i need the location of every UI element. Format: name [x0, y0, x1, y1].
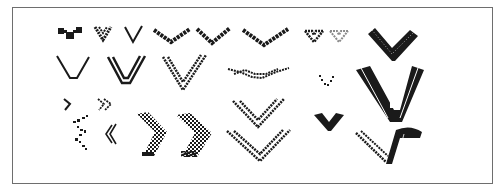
pattern-sample-grid: [0, 0, 503, 195]
sample-dot-v-icon: [319, 75, 334, 86]
sample-checker-chevron-2-icon: [176, 113, 212, 157]
sample-double-arrow-right-icon: [98, 99, 111, 110]
sample-checker-v-icon: [163, 55, 206, 90]
sample-checker-v-small-icon: [233, 99, 284, 127]
sample-checker-v-wide-icon: [227, 130, 290, 161]
sample-open-v-icon: [57, 56, 89, 78]
sample-double-v-icon: [108, 56, 145, 83]
sample-wave-chain-icon: [228, 68, 289, 78]
sample-checker-chevron-1-icon: [137, 112, 167, 156]
sample-jagged-v-icon: [154, 29, 190, 42]
sample-big-filled-v-icon: [356, 66, 424, 122]
sample-jagged-v3-icon: [243, 29, 288, 45]
sample-dotted-zigzag-icon: [73, 115, 88, 150]
sample-small-v-icon: [95, 27, 111, 40]
sample-hollow-heart-light-icon: [330, 31, 348, 42]
sample-jagged-v2-icon: [197, 28, 230, 43]
sample-swoosh-icon: [356, 127, 422, 164]
sample-thin-v-icon: [125, 26, 142, 42]
sample-hollow-heart-dark-icon: [305, 31, 323, 42]
sample-small-arrow-right-icon: [64, 99, 70, 110]
sample-left-arrows-icon: [106, 124, 116, 144]
sample-bold-wing-icon: [368, 28, 418, 61]
sample-filled-small-v-icon: [314, 113, 344, 131]
sample-block-v-icon: [58, 27, 82, 39]
